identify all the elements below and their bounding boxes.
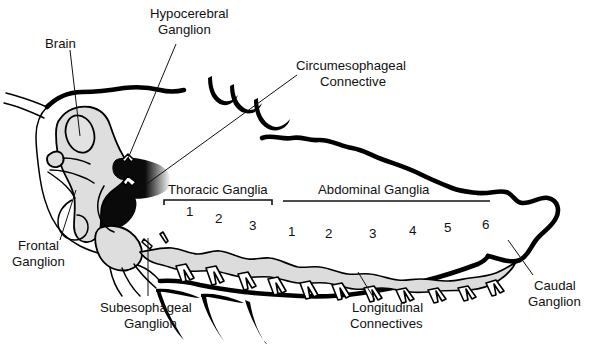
label-circumesophageal-line1: Circumesophageal bbox=[296, 58, 406, 73]
thoracic-number-2: 2 bbox=[215, 211, 222, 226]
label-caudal-line1: Caudal bbox=[534, 278, 576, 293]
label-longitudinal-line2: Connectives bbox=[350, 316, 423, 331]
frontal-ganglion-blob bbox=[47, 152, 64, 168]
abdominal-number-4: 4 bbox=[409, 223, 417, 238]
label-abdominal-ganglia: Abdominal Ganglia bbox=[318, 182, 430, 197]
label-subesophageal-line1: Subesophageal bbox=[100, 300, 192, 315]
label-frontal-line2: Ganglion bbox=[12, 254, 65, 269]
label-longitudinal-line1: Longitudinal bbox=[352, 300, 423, 315]
label-thoracic-ganglia: Thoracic Ganglia bbox=[168, 182, 268, 197]
label-hypocerebral-line1: Hypocerebral bbox=[150, 6, 228, 21]
thoracic-number-1: 1 bbox=[186, 204, 193, 219]
abdominal-number-6: 6 bbox=[482, 217, 489, 232]
thoracic-number-3: 3 bbox=[249, 218, 256, 233]
label-frontal-line1: Frontal bbox=[18, 238, 59, 253]
abdominal-number-5: 5 bbox=[444, 220, 451, 235]
label-caudal-line2: Ganglion bbox=[528, 294, 581, 309]
label-subesophageal-line2: Ganglion bbox=[124, 316, 177, 331]
label-brain: Brain bbox=[45, 36, 76, 51]
insect-nervous-system-diagram: Brain Hypocerebral Ganglion Circumesopha… bbox=[0, 0, 600, 344]
label-circumesophageal-line2: Connective bbox=[320, 74, 386, 89]
diagram-figure: Brain Hypocerebral Ganglion Circumesopha… bbox=[0, 0, 600, 344]
abdominal-number-3: 3 bbox=[369, 226, 376, 241]
abdominal-number-2: 2 bbox=[325, 226, 332, 241]
abdominal-number-1: 1 bbox=[288, 224, 295, 239]
label-hypocerebral-line2: Ganglion bbox=[158, 22, 211, 37]
